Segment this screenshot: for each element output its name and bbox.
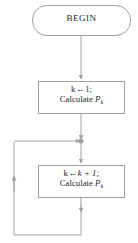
begin-terminator-node: [33, 6, 131, 36]
flowchart-diagram: BEGIN k←1; Calculate Pk k←k + 1; Calcula…: [0, 0, 138, 243]
increment-process-node: [39, 166, 125, 198]
init-process-node: [39, 82, 125, 114]
flowchart-canvas: [0, 0, 138, 243]
